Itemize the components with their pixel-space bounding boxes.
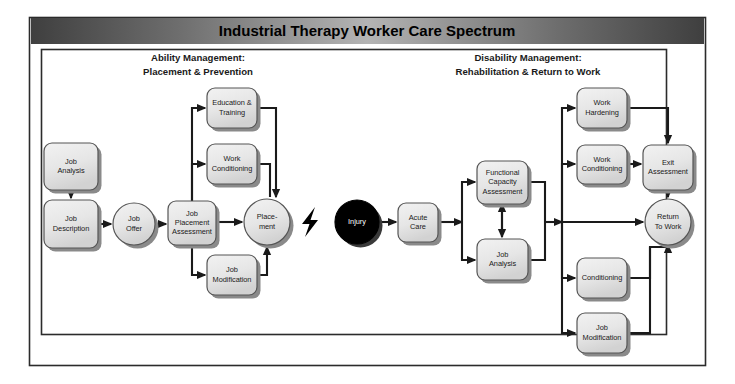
node-label: Conditioning xyxy=(582,164,623,173)
node-label: To Work xyxy=(655,222,682,231)
node-label: Acute xyxy=(409,213,428,222)
node-label: Analysis xyxy=(57,166,84,175)
node-label: Assessment xyxy=(483,187,523,196)
node-label: Exit xyxy=(662,158,674,167)
node-label: Offer xyxy=(126,224,143,233)
node-label: Analysis xyxy=(489,259,516,268)
node-work-hardening[interactable]: WorkHardening xyxy=(577,88,631,132)
node-label: Conditioning xyxy=(582,273,623,282)
node-label: Work xyxy=(224,154,241,163)
node-work-conditioning-prevention[interactable]: WorkConditioning xyxy=(207,144,261,188)
ability-header-line2: Placement & Prevention xyxy=(143,66,253,77)
node-acute-care[interactable]: AcuteCare xyxy=(398,203,442,246)
node-job-modification-prevention[interactable]: JobModification xyxy=(207,255,261,299)
node-job-description[interactable]: JobDescription xyxy=(44,200,102,252)
node-job-analysis-rehab[interactable]: JobAnalysis xyxy=(477,239,532,284)
node-label: Placement xyxy=(175,218,209,227)
node-label: Training xyxy=(219,108,245,117)
node-label: Injury xyxy=(348,217,366,226)
node-label: ment xyxy=(259,222,275,231)
node-label: Place- xyxy=(257,212,278,221)
node-work-conditioning-rehab[interactable]: WorkConditioning xyxy=(577,145,631,188)
node-job-modification-rehab[interactable]: JobModification xyxy=(577,313,631,357)
title-bar: Industrial Therapy Worker Care Spectrum xyxy=(31,18,704,44)
node-functional-capacity-assessment[interactable]: FunctionalCapacityAssessment xyxy=(477,161,532,208)
node-label: Job xyxy=(65,157,77,166)
node-job-placement-assessment[interactable]: JobPlacementAssessment xyxy=(168,201,220,249)
node-label: Education & xyxy=(212,98,251,107)
node-label: Job xyxy=(65,214,77,223)
node-label: Work xyxy=(594,98,611,107)
node-label: Job xyxy=(497,250,509,259)
node-label: Return xyxy=(657,212,679,221)
node-label: Assessment xyxy=(172,227,212,236)
node-conditioning[interactable]: Conditioning xyxy=(577,258,631,302)
node-label: Job xyxy=(128,214,140,223)
node-education-and-training[interactable]: Education &Training xyxy=(207,88,261,132)
ability-header-line1: Ability Management: xyxy=(151,52,245,63)
node-label: Job xyxy=(186,209,198,218)
disability-header-line2: Rehabilitation & Return to Work xyxy=(456,66,601,77)
node-label: Modification xyxy=(583,333,622,342)
page-title: Industrial Therapy Worker Care Spectrum xyxy=(219,22,515,39)
node-label: Conditioning xyxy=(212,164,253,173)
node-job-analysis[interactable]: JobAnalysis xyxy=(44,143,102,194)
node-label: Work xyxy=(594,155,611,164)
node-label: Description xyxy=(53,224,89,233)
diagram-canvas: Industrial Therapy Worker Care Spectrum … xyxy=(0,0,735,384)
node-label: Job xyxy=(596,323,608,332)
node-exit-assessment[interactable]: ExitAssessment xyxy=(643,145,697,194)
node-label: Functional xyxy=(486,168,520,177)
node-label: Job xyxy=(226,265,238,274)
node-label: Modification xyxy=(213,275,252,284)
disability-header-line1: Disability Management: xyxy=(474,52,581,63)
node-label: Capacity xyxy=(488,177,517,186)
node-label: Assessment xyxy=(648,167,688,176)
node-label: Care xyxy=(410,222,426,231)
node-label: Hardening xyxy=(585,108,619,117)
